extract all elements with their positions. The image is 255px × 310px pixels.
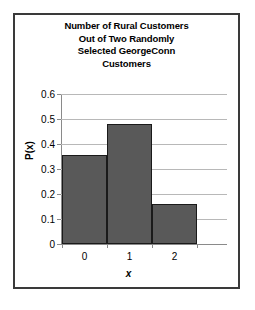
bar — [152, 204, 197, 244]
y-tick-mark — [57, 194, 61, 195]
x-tick-label: 1 — [127, 251, 133, 262]
chart-figure: Number of Rural Customers Out of Two Ran… — [13, 13, 240, 289]
y-tick-mark — [57, 94, 61, 95]
bar — [107, 124, 152, 244]
y-tick-mark — [57, 244, 61, 245]
y-tick-label: 0 — [49, 239, 55, 250]
x-tick-mark — [107, 244, 108, 248]
plot-area: 0.60.50.40.30.20.10 012 — [61, 94, 227, 244]
x-tick-label: 2 — [172, 251, 178, 262]
y-tick-label: 0.6 — [41, 89, 55, 100]
y-tick-mark — [57, 119, 61, 120]
x-tick-mark — [62, 244, 63, 248]
x-tick-label: 0 — [82, 251, 88, 262]
y-tick-label: 0.5 — [41, 114, 55, 125]
chart-title: Number of Rural Customers Out of Two Ran… — [15, 20, 238, 70]
bar-series — [62, 94, 197, 244]
y-tick-mark — [57, 219, 61, 220]
x-axis-label: x — [61, 268, 196, 279]
y-tick-mark — [57, 144, 61, 145]
chart-title-line-3: Selected GeorgeConn — [15, 45, 238, 58]
y-tick-label: 0.2 — [41, 189, 55, 200]
gridline — [61, 244, 227, 245]
y-tick-label: 0.1 — [41, 214, 55, 225]
chart-title-line-1: Number of Rural Customers — [15, 20, 238, 33]
x-tick-mark — [197, 244, 198, 248]
y-tick-mark — [57, 169, 61, 170]
bar — [62, 155, 107, 244]
chart-title-line-4: Customers — [15, 58, 238, 71]
chart-title-line-2: Out of Two Randomly — [15, 33, 238, 46]
y-axis-label: P(x) — [24, 141, 35, 160]
y-tick-label: 0.4 — [41, 139, 55, 150]
x-tick-mark — [152, 244, 153, 248]
y-tick-label: 0.3 — [41, 164, 55, 175]
